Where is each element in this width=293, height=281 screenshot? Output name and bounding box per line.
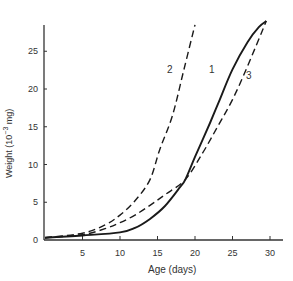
y-tick-label: 5 [33,197,38,207]
curve-1 [45,21,266,238]
x-tick-label: 5 [80,248,85,258]
y-tick-label: 20 [28,84,38,94]
x-ticks: 51015202530 [80,236,275,258]
y-axis-label-end: mg) [4,109,14,127]
y-axis-label-main: Weight (10 [4,135,14,178]
x-tick-label: 10 [115,248,125,258]
y-tick-label: 15 [28,122,38,132]
curve-3 [45,21,266,238]
curve-labels: 1 2 3 [167,64,252,81]
curve-label-2: 2 [167,64,173,75]
series-group [45,21,266,238]
x-axis-label: Age (days) [148,264,196,275]
curve-2 [45,25,195,238]
x-tick-label: 25 [227,248,237,258]
curve-label-3: 3 [246,70,252,81]
y-axis-label-sup: −3 [2,127,9,135]
y-tick-label: 10 [28,160,38,170]
x-tick-label: 20 [190,248,200,258]
y-axis-label: Weight (10−3 mg) [2,109,14,178]
x-tick-label: 30 [265,248,275,258]
y-tick-label: 0 [33,235,38,245]
x-tick-label: 15 [152,248,162,258]
growth-chart: 51015202530 0510152025 1 2 3 Age (days) … [0,0,293,281]
curve-label-1: 1 [209,64,215,75]
y-tick-label: 25 [28,46,38,56]
